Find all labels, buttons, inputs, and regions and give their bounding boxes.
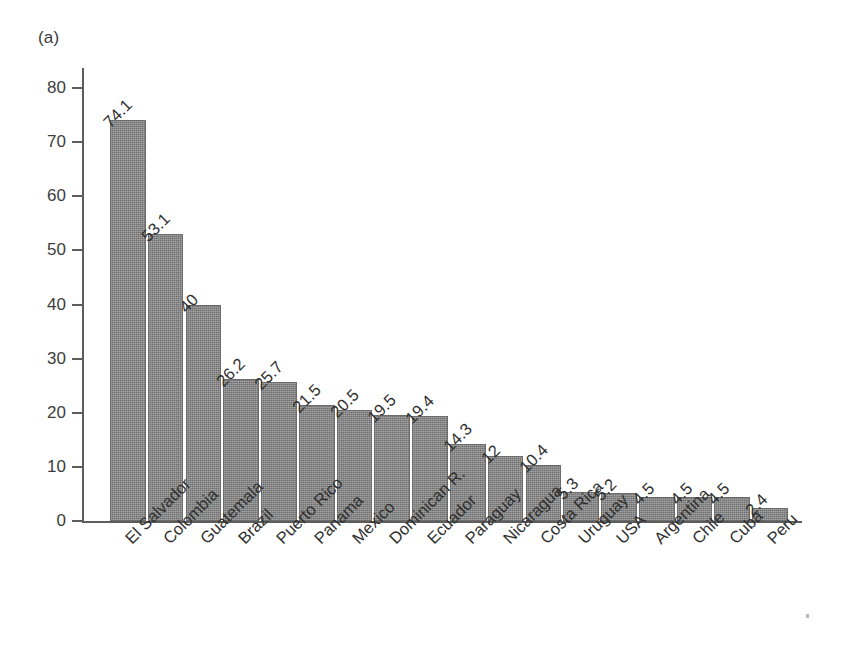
y-axis-tick (72, 195, 83, 197)
y-axis-tick-label: 50 (0, 241, 66, 258)
x-axis-category-label: Guatemala (197, 535, 209, 547)
y-axis-line (82, 68, 84, 523)
y-axis-tick-label: 20 (0, 404, 66, 421)
x-axis-category-label: Mexico (349, 535, 361, 547)
x-axis-category-label: El Salvador (122, 535, 134, 547)
y-axis-tick-label: 70 (0, 133, 66, 150)
y-axis-tick-label: 0 (0, 512, 66, 529)
y-axis-tick (72, 141, 83, 143)
x-axis-category-label: Brazil (235, 535, 247, 547)
y-axis-tick-label: 60 (0, 187, 66, 204)
x-axis-category-label: Peru (764, 535, 776, 547)
y-axis-tick-label: 40 (0, 296, 66, 313)
x-axis-category-label: Chile (689, 535, 701, 547)
x-axis-category-label: Panama (311, 535, 323, 547)
x-axis-category-label: Ecuador (424, 535, 436, 547)
y-axis-tick (72, 87, 83, 89)
x-axis-category-label: Costa Rica (537, 535, 549, 547)
y-axis-tick (72, 249, 83, 251)
x-axis-category-label: Argentina (651, 535, 663, 547)
x-axis-category-label: Cuba (726, 535, 738, 547)
page-speck (806, 614, 809, 618)
x-axis-category-label: Nicaragua (500, 535, 512, 547)
y-axis-tick (72, 304, 83, 306)
x-axis-category-label: Uruguay (575, 535, 587, 547)
y-axis-tick-label: 80 (0, 79, 66, 96)
x-axis-category-label: Paraguay (462, 535, 474, 547)
x-axis-category-label: Puerto Rico (273, 535, 285, 547)
x-axis-category-label: Colombia (160, 535, 172, 547)
x-axis-category-label: Dominican R. (386, 535, 398, 547)
y-axis-tick (72, 358, 83, 360)
x-axis-category-label: USA (613, 535, 625, 547)
y-axis-tick (72, 520, 83, 522)
chart-figure: (a) 01020304050607080 74.153.14026.225.7… (0, 0, 847, 659)
panel-label: (a) (38, 28, 59, 48)
bar (110, 120, 146, 521)
y-axis-tick-label: 30 (0, 350, 66, 367)
y-axis-tick (72, 466, 83, 468)
y-axis-tick (72, 412, 83, 414)
y-axis-tick-label: 10 (0, 458, 66, 475)
